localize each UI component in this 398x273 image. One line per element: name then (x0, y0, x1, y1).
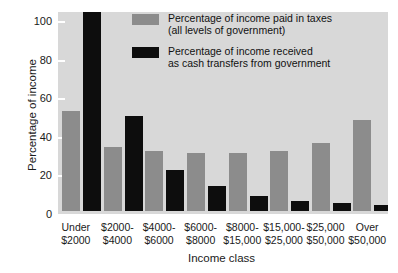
y-axis-ticks: 020406080100 (0, 12, 52, 217)
bar (208, 186, 226, 211)
legend-label-line: (all levels of government) (168, 24, 332, 36)
legend-label-line: Percentage of income received (168, 45, 330, 57)
legend-label-line: Percentage of income paid in taxes (168, 12, 332, 24)
y-tick-label: 80 (6, 55, 52, 65)
bar (83, 12, 101, 211)
bar (312, 143, 330, 211)
bar (229, 153, 247, 211)
legend-label: Percentage of income paid in taxes(all l… (168, 12, 332, 36)
bar (125, 116, 143, 211)
legend-label-line: as cash transfers from government (168, 57, 330, 69)
bar (62, 111, 80, 211)
bar (333, 203, 351, 211)
bar (270, 151, 288, 211)
bar-group (62, 12, 104, 214)
x-axis-title: Income class (55, 252, 388, 264)
bar (145, 151, 163, 211)
y-tick-label: 0 (6, 209, 52, 219)
y-tick-label: 60 (6, 93, 52, 103)
bar (166, 170, 184, 211)
y-tick-label: 20 (6, 170, 52, 180)
bar (250, 196, 268, 211)
bar (104, 147, 122, 211)
bar (291, 201, 309, 211)
x-tick-label: Over$50,000 (342, 221, 392, 246)
chart-figure: Percentage of income 020406080100 Percen… (0, 0, 398, 273)
legend-item: Percentage of income receivedas cash tra… (132, 45, 382, 69)
y-tick-label: 100 (6, 16, 52, 26)
x-axis-ticks: Under$2000$2000-$4000$4000-$6000$6000-$8… (55, 221, 388, 249)
legend-swatch-black (132, 47, 159, 58)
legend-label: Percentage of income receivedas cash tra… (168, 45, 330, 69)
x-tick-label-line: $50,000 (342, 234, 392, 247)
bar (374, 205, 388, 211)
legend-swatch-gray (132, 14, 159, 25)
x-tick-label-line: Over (342, 221, 392, 234)
bar (353, 120, 371, 211)
chart-legend: Percentage of income paid in taxes(all l… (132, 12, 382, 78)
bar (187, 153, 205, 211)
y-tick-label: 40 (6, 132, 52, 142)
legend-item: Percentage of income paid in taxes(all l… (132, 12, 382, 36)
